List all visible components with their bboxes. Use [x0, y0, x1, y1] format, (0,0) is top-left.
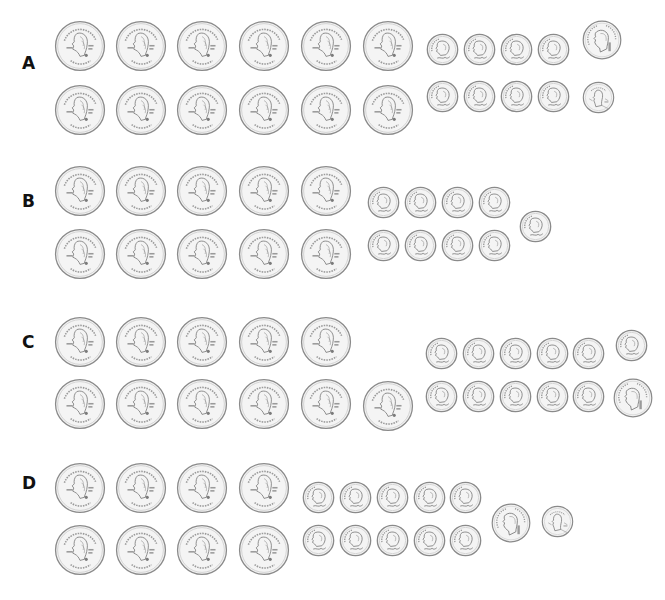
dime-coin-icon: [376, 481, 409, 514]
nickel-coin-icon: [491, 503, 531, 543]
quarter-coin-icon: [238, 462, 290, 514]
penny-coin-icon: [541, 505, 574, 538]
dime-coin-icon: [302, 481, 335, 514]
dime-coin-icon: [413, 481, 446, 514]
dime-coin-icon: [376, 524, 409, 557]
option-d[interactable]: D: [0, 0, 665, 600]
dime-coin-icon: [449, 481, 482, 514]
dime-coin-icon: [302, 524, 335, 557]
dime-coin-icon: [339, 524, 372, 557]
quarter-coin-icon: [54, 524, 106, 576]
coin-options-figure: A B C D: [0, 0, 665, 600]
quarter-coin-icon: [115, 524, 167, 576]
quarter-coin-icon: [238, 524, 290, 576]
dime-coin-icon: [339, 481, 372, 514]
quarter-coin-icon: [115, 462, 167, 514]
option-label: D: [22, 475, 36, 492]
dime-coin-icon: [413, 524, 446, 557]
dime-coin-icon: [449, 524, 482, 557]
quarter-coin-icon: [176, 524, 228, 576]
quarter-coin-icon: [54, 462, 106, 514]
quarter-coin-icon: [176, 462, 228, 514]
